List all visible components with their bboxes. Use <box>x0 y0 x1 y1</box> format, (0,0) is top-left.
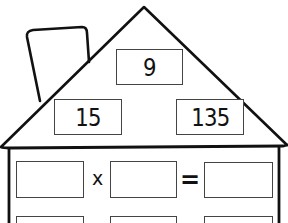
equation-2-result-box[interactable] <box>204 216 273 223</box>
roof-left-number-box[interactable]: 15 <box>54 99 122 135</box>
equation-1-operand2-box[interactable] <box>110 161 177 198</box>
roof-right-number: 135 <box>191 105 229 130</box>
roof-top-number-box[interactable]: 9 <box>116 49 183 85</box>
equals-sign: = <box>180 168 200 192</box>
equation-1-result-box[interactable] <box>204 162 273 198</box>
roof-left-number: 15 <box>75 105 100 130</box>
equation-2-operand2-box[interactable] <box>110 216 177 223</box>
equation-2-operand1-box[interactable] <box>16 216 84 223</box>
multiply-sign: x <box>92 169 103 188</box>
roof-base <box>1 145 287 148</box>
equation-1-operand1-box[interactable] <box>16 161 84 198</box>
roof-top-number: 9 <box>143 55 156 80</box>
roof-right-number-box[interactable]: 135 <box>176 99 244 135</box>
